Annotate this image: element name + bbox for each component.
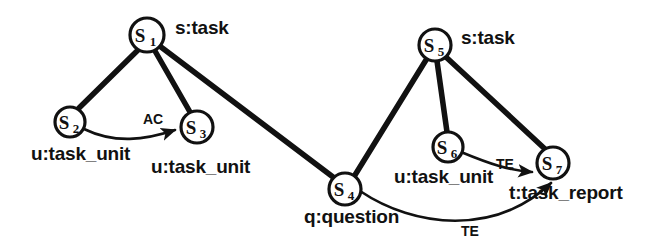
node-s4[interactable]: S 4 [329,173,361,205]
type-label-s5: s:task [461,27,515,49]
edge-s5-s6 [437,61,447,132]
node-s6[interactable]: S 6 [433,132,463,162]
graph-diagram: S 1 S 2 S 3 S 4 S 5 [0,0,661,252]
edge-s1-s2 [79,50,138,108]
svg-text:S: S [424,35,435,56]
svg-text:S: S [542,153,553,174]
svg-text:S: S [135,25,146,46]
svg-text:2: 2 [73,121,80,136]
type-label-s6: u:task_unit [394,166,493,188]
edge-s2-s3-ac [84,129,175,139]
edge-s5-s4 [355,60,426,175]
arc-label-te-s4-s7: TE [461,223,479,239]
type-label-s7: t:task_report [509,182,623,204]
type-label-s4: q:question [304,206,399,228]
node-s3[interactable]: S 3 [181,111,213,143]
svg-text:S: S [59,112,70,133]
edge-s5-s7 [447,58,545,149]
svg-text:1: 1 [150,34,157,49]
node-s2[interactable]: S 2 [55,107,85,137]
svg-text:5: 5 [438,44,445,59]
svg-text:7: 7 [556,162,563,177]
svg-text:S: S [186,117,197,138]
node-s1[interactable]: S 1 [130,18,164,52]
arc-label-te-s6-s7: TE [496,156,514,172]
edge-s1-s3 [155,51,190,112]
type-label-s1: s:task [175,17,229,39]
node-s5[interactable]: S 5 [419,29,451,61]
node-s7[interactable]: S 7 [537,147,569,179]
svg-text:4: 4 [348,188,355,203]
svg-text:S: S [437,137,448,158]
svg-text:S: S [334,179,345,200]
svg-text:3: 3 [200,126,207,141]
type-label-s3: u:task_unit [151,156,250,178]
type-label-s2: u:task_unit [31,143,130,165]
svg-text:6: 6 [451,146,458,161]
arc-label-ac: AC [143,111,163,127]
